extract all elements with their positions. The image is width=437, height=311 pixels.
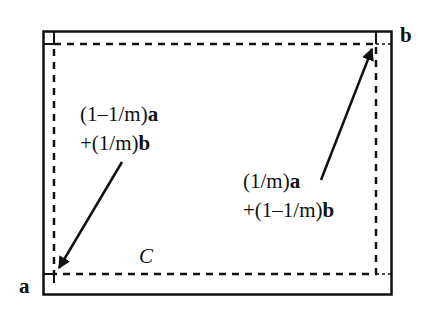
right-line2-coef: +(1–1/m) [243, 198, 323, 222]
left-line1-coef: (1–1/m) [80, 102, 148, 126]
region-label-c: C [139, 246, 153, 267]
right-line2-var: b [323, 198, 335, 222]
arrow-to-a [59, 162, 122, 268]
left-line2-var: b [139, 131, 151, 155]
corner-label-a: a [19, 276, 30, 297]
left-expression: (1–1/m)a +(1/m)b [80, 104, 158, 154]
right-expression: (1/m)a +(1–1/m)b [243, 171, 334, 221]
left-expression-line1: (1–1/m)a [80, 104, 158, 125]
right-line1-var: a [290, 169, 301, 193]
left-expression-line2: +(1/m)b [80, 133, 158, 154]
right-expression-line1: (1/m)a [243, 171, 334, 192]
corner-label-b: b [400, 25, 412, 46]
arrow-to-b [321, 49, 372, 180]
right-expression-line2: +(1–1/m)b [243, 200, 334, 221]
outer-box [44, 32, 392, 295]
right-line1-coef: (1/m) [243, 169, 290, 193]
inner-dashed-box [54, 44, 376, 274]
left-line1-var: a [148, 102, 159, 126]
box-diagram [0, 0, 437, 311]
left-line2-coef: +(1/m) [80, 131, 139, 155]
